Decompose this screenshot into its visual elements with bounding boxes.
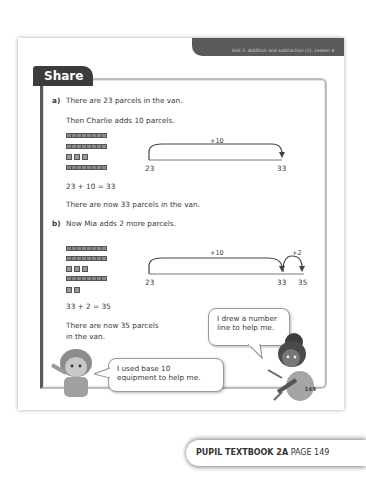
- bubble-right-line1: I drew a number: [217, 314, 281, 323]
- footer-badge: PUPIL TEXTBOOK 2A PAGE 149: [186, 440, 366, 466]
- jump2-label-b: +2: [292, 249, 302, 257]
- ones-cube: [74, 287, 80, 293]
- equation-b: 33 + 2 = 35: [66, 302, 111, 311]
- nl-b-start: 23: [145, 278, 154, 287]
- nl-a-end: 33: [277, 164, 286, 173]
- part-b-line1: Now Mia adds 2 more parcels.: [66, 219, 176, 228]
- ones-cube: [82, 154, 88, 160]
- section-title: Share: [33, 66, 93, 86]
- unit-banner: Unit 5: Addition and subtraction (2), Le…: [192, 38, 344, 56]
- jump1-label-b: +10: [210, 249, 224, 257]
- part-b-label: b): [52, 219, 61, 228]
- bubble-left-line2: equipment to help me.: [117, 373, 215, 382]
- tens-rod: [66, 256, 107, 261]
- result-b-line1: There are now 35 parcels: [66, 321, 159, 330]
- ones-cube: [82, 266, 88, 272]
- tens-rod: [66, 246, 107, 251]
- result-b-line2: in the van.: [66, 332, 105, 341]
- jump-label-a: +10: [210, 137, 224, 145]
- number-line-b: [142, 250, 312, 282]
- part-a-line1: There are 23 parcels in the van.: [66, 96, 183, 105]
- footer-book-title: PUPIL TEXTBOOK 2A: [196, 448, 288, 457]
- footer-page: PAGE 149: [291, 448, 330, 457]
- character-mia: [264, 330, 324, 405]
- tens-rod: [66, 144, 107, 149]
- speech-bubble-left: I used base 10 equipment to help me.: [108, 358, 224, 392]
- nl-b-end: 35: [298, 278, 307, 287]
- ones-cube: [66, 154, 72, 160]
- textbook-page: Unit 5: Addition and subtraction (2), Le…: [18, 38, 344, 410]
- page-number: 149: [305, 386, 316, 392]
- result-a: There are now 33 parcels in the van.: [66, 200, 200, 209]
- ones-cube: [66, 287, 72, 293]
- part-a-label: a): [52, 96, 60, 105]
- tens-rod: [66, 165, 107, 170]
- equation-a: 23 + 10 = 33: [66, 182, 115, 191]
- ones-cube: [66, 266, 72, 272]
- character-charlie: [48, 343, 103, 398]
- tens-rod: [66, 276, 107, 281]
- nl-b-mid: 33: [277, 278, 286, 287]
- tens-rod: [66, 133, 107, 138]
- nl-a-start: 23: [145, 164, 154, 173]
- ones-cube: [74, 154, 80, 160]
- bubble-left-line1: I used base 10: [117, 364, 215, 373]
- part-a-line2: Then Charlie adds 10 parcels.: [66, 116, 175, 125]
- ones-cube: [74, 266, 80, 272]
